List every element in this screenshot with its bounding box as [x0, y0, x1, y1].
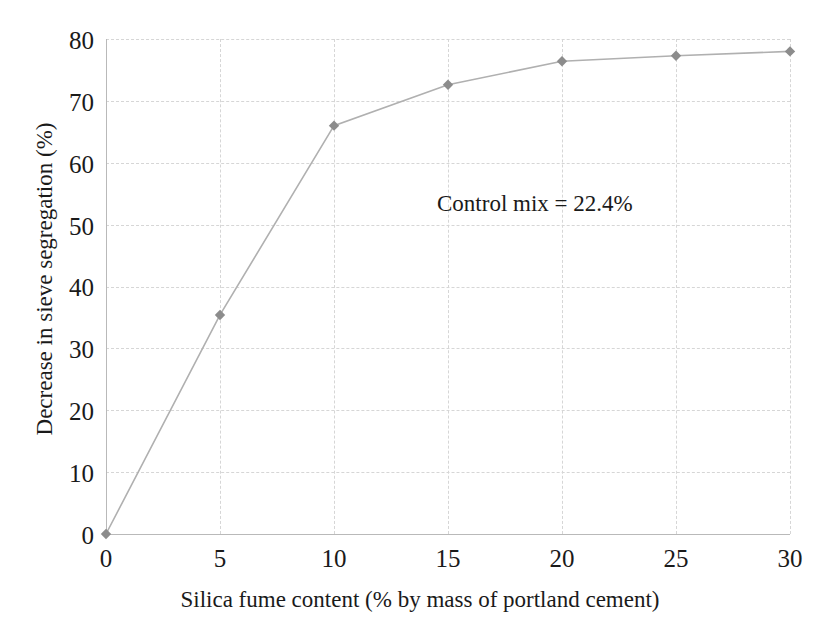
x-tick-label: 5 — [214, 546, 227, 571]
x-axis-tick-labels: 0 5 10 15 20 25 30 — [0, 546, 840, 578]
x-tick-label: 10 — [322, 546, 347, 571]
y-tick-label: 40 — [69, 275, 94, 300]
data-point-marker — [671, 51, 681, 61]
x-axis-line — [106, 534, 790, 535]
gridline-vertical — [790, 39, 791, 534]
y-tick-label: 50 — [69, 214, 94, 239]
x-tick-label: 15 — [436, 546, 461, 571]
y-tick-label: 30 — [69, 337, 94, 362]
data-point-marker — [101, 529, 111, 539]
x-axis-title: Silica fume content (% by mass of portla… — [0, 588, 840, 611]
y-tick-label: 0 — [82, 523, 95, 548]
chart-figure: 80 70 60 50 40 30 20 10 0 — [0, 0, 840, 628]
x-tick-label: 25 — [664, 546, 689, 571]
y-tick-label: 60 — [69, 152, 94, 177]
y-axis-title: Decrease in sieve segregation (%) — [33, 0, 56, 559]
x-tick-label: 0 — [100, 546, 113, 571]
chart-annotation: Control mix = 22.4% — [437, 192, 633, 215]
series-polyline — [106, 51, 790, 534]
y-axis-title-wrapper: Decrease in sieve segregation (%) — [33, 0, 63, 559]
series-markers — [101, 46, 795, 539]
data-point-marker — [329, 120, 339, 130]
data-point-marker — [785, 46, 795, 56]
data-series-line — [106, 39, 790, 534]
y-tick-label: 80 — [69, 28, 94, 53]
y-tick-label: 10 — [69, 461, 94, 486]
plot-area — [106, 39, 790, 534]
x-tick-label: 20 — [550, 546, 575, 571]
data-point-marker — [443, 80, 453, 90]
y-tick-label: 70 — [69, 90, 94, 115]
data-point-marker — [557, 56, 567, 66]
data-point-marker — [215, 310, 225, 320]
y-tick-label: 20 — [69, 399, 94, 424]
x-tick-label: 30 — [778, 546, 803, 571]
